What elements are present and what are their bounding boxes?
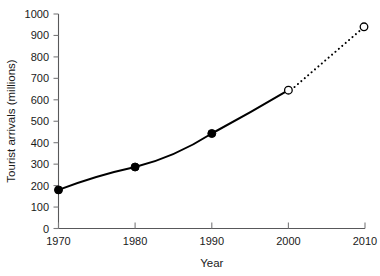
y-tick-label: 500 xyxy=(31,115,49,127)
data-point-1970 xyxy=(55,186,63,194)
y-tick-label: 700 xyxy=(31,72,49,84)
data-point-2000 xyxy=(285,86,293,94)
y-tick-marks xyxy=(54,14,59,229)
x-tick-label: 1980 xyxy=(123,235,147,247)
y-tick-label: 600 xyxy=(31,94,49,106)
series-line-observed xyxy=(59,90,289,190)
series-line-projected xyxy=(295,31,360,87)
y-tick-label: 200 xyxy=(31,180,49,192)
y-axis-title: Tourist arrivals (millions) xyxy=(5,59,17,182)
x-axis-title: Year xyxy=(200,257,223,269)
y-tick-label: 900 xyxy=(31,29,49,41)
y-tick-label: 400 xyxy=(31,137,49,149)
x-tick-label: 1990 xyxy=(200,235,224,247)
x-tick-label: 2010 xyxy=(353,235,377,247)
y-tick-label: 1000 xyxy=(25,8,49,20)
y-tick-label: 0 xyxy=(43,223,49,235)
data-point-1980 xyxy=(131,163,139,171)
data-point-2010 xyxy=(360,23,368,31)
x-tick-labels: 1970 1980 1990 2000 2010 xyxy=(46,235,377,247)
data-point-1990 xyxy=(208,130,216,138)
chart-container: 1000 900 800 700 600 500 400 300 200 100… xyxy=(0,0,380,276)
x-tick-label: 1970 xyxy=(46,235,70,247)
x-tick-label: 2000 xyxy=(276,235,300,247)
y-tick-labels: 1000 900 800 700 600 500 400 300 200 100… xyxy=(25,8,49,235)
x-tick-marks xyxy=(59,223,366,229)
y-tick-label: 100 xyxy=(31,201,49,213)
y-tick-label: 300 xyxy=(31,158,49,170)
line-chart: 1000 900 800 700 600 500 400 300 200 100… xyxy=(0,0,380,276)
y-tick-label: 800 xyxy=(31,51,49,63)
